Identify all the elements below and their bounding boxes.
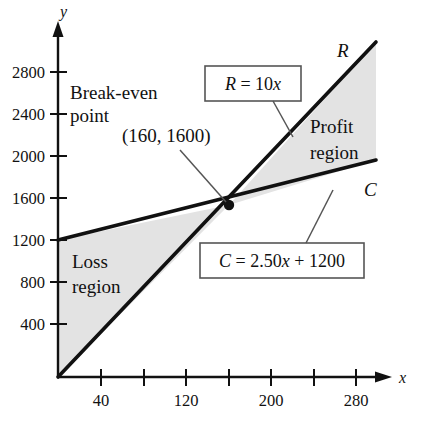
x-axis-arrowhead bbox=[375, 372, 392, 383]
cost-box-leader-line bbox=[306, 190, 333, 243]
revenue-equation-text: R = 10x bbox=[224, 74, 281, 94]
revenue-curve-label: R bbox=[336, 40, 349, 61]
x-tick-label-120: 120 bbox=[174, 391, 199, 410]
break-even-coordinates-label: (160, 1600) bbox=[122, 125, 211, 147]
revenue-eq-var: R bbox=[224, 74, 236, 94]
revenue-eq-operator: = bbox=[240, 74, 250, 94]
cost-eq-coefficient: 2.50 bbox=[250, 251, 282, 271]
y-axis-arrowhead bbox=[53, 21, 64, 37]
x-tick-label-200: 200 bbox=[259, 391, 284, 410]
profit-region-label-line2: region bbox=[310, 142, 359, 163]
y-tick-label-800: 800 bbox=[20, 273, 45, 292]
y-tick-label-400: 400 bbox=[20, 315, 45, 334]
break-even-leader-line bbox=[180, 150, 226, 202]
revenue-eq-variable: x bbox=[272, 74, 281, 94]
cost-eq-variable: x bbox=[281, 251, 290, 271]
cost-equation-text: C = 2.50x + 1200 bbox=[219, 251, 345, 271]
break-even-label-line2: point bbox=[70, 105, 110, 126]
y-tick-label-2800: 2800 bbox=[12, 63, 45, 82]
break-even-chart: 2800 2400 2000 1600 1200 800 400 40 120 … bbox=[0, 0, 422, 432]
y-tick-label-2000: 2000 bbox=[12, 147, 45, 166]
y-tick-label-2400: 2400 bbox=[12, 105, 45, 124]
cost-curve-label: C bbox=[364, 179, 377, 200]
x-axis-label: x bbox=[398, 369, 406, 386]
profit-region-label-line1: Profit bbox=[310, 116, 354, 137]
y-tick-label-1200: 1200 bbox=[12, 231, 45, 250]
y-axis-label: y bbox=[58, 3, 68, 21]
loss-region-label-line2: region bbox=[72, 276, 121, 297]
y-tick-label-1600: 1600 bbox=[12, 189, 45, 208]
cost-eq-operator: = bbox=[236, 251, 246, 271]
revenue-eq-coefficient: 10 bbox=[255, 74, 273, 94]
loss-region-label-line1: Loss bbox=[72, 251, 108, 272]
x-tick-label-280: 280 bbox=[344, 391, 369, 410]
revenue-box-leader-line bbox=[273, 101, 293, 137]
x-tick-label-40: 40 bbox=[93, 391, 110, 410]
cost-eq-tail: + 1200 bbox=[294, 251, 345, 271]
break-even-label-line1: Break-even bbox=[70, 82, 158, 103]
